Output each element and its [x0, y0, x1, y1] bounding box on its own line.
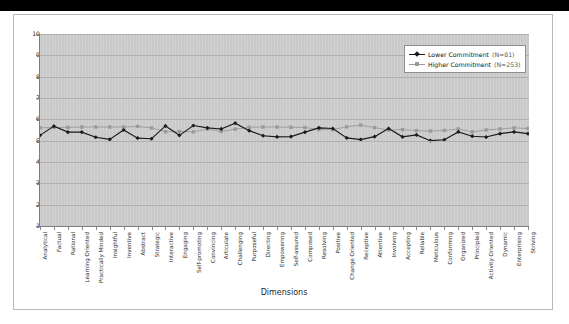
diamond-marker-icon: [409, 50, 425, 58]
chart-figure-card: 10987654321 Lower Commitment (N=81): [13, 14, 553, 310]
diamond-marker: [414, 133, 418, 137]
square-marker: [247, 126, 250, 129]
x-tick-mark: [221, 227, 222, 230]
x-tick-mark: [319, 227, 320, 230]
x-tick-mark: [82, 227, 83, 230]
x-tick-mark: [152, 227, 153, 230]
square-marker: [108, 125, 111, 128]
diamond-marker: [498, 132, 502, 136]
x-tick-mark: [291, 227, 292, 230]
square-marker: [359, 123, 362, 126]
gridline: [40, 205, 529, 206]
x-tick-mark: [40, 227, 41, 230]
x-tick-label: Self-assured: [293, 232, 299, 266]
square-marker: [443, 129, 446, 132]
x-tick-label: Receptive: [363, 232, 369, 260]
square-marker: [192, 130, 195, 133]
square-marker: [80, 125, 83, 128]
diamond-marker: [247, 129, 251, 133]
x-tick-label: Engaging: [182, 232, 188, 258]
x-tick-mark: [361, 227, 362, 230]
legend-label-lower-commitment: Lower Commitment: [428, 51, 489, 58]
x-tick-label: Self-promoting: [196, 232, 202, 273]
square-marker: [261, 125, 264, 128]
x-tick-mark: [110, 227, 111, 230]
legend-row-lower-commitment: Lower Commitment (N=81): [409, 49, 520, 59]
square-marker: [429, 129, 432, 132]
square-marker: [40, 126, 42, 129]
x-tick-mark: [305, 227, 306, 230]
x-tick-label: Strategic: [154, 232, 160, 257]
x-tick-label: Rational: [70, 232, 76, 255]
diamond-marker: [289, 135, 293, 139]
x-tick-label: Factual: [56, 232, 62, 252]
x-tick-mark: [333, 227, 334, 230]
x-tick-label: Principled: [474, 232, 480, 259]
x-axis-title: Dimensions: [14, 288, 554, 297]
diamond-marker: [275, 135, 279, 139]
square-marker: [136, 125, 139, 128]
gridline: [40, 34, 529, 35]
square-marker: [401, 128, 404, 131]
chart-legend: Lower Commitment (N=81) Higher Commitmen…: [404, 45, 526, 73]
x-tick-mark: [193, 227, 194, 230]
square-marker: [275, 125, 278, 128]
x-tick-label: Organized: [460, 232, 466, 261]
x-tick-label: Reliable: [419, 232, 425, 254]
x-tick-mark: [486, 227, 487, 230]
gridline: [40, 98, 529, 99]
x-tick-label: Learning Oriented: [84, 232, 90, 283]
x-tick-label: Convincing: [210, 232, 216, 263]
x-axis-line: [40, 226, 529, 227]
x-tick-mark: [96, 227, 97, 230]
x-tick-label: Change Oriented: [349, 232, 355, 280]
x-tick-label: Practically Minded: [98, 232, 104, 283]
x-tick-mark: [430, 227, 431, 230]
square-marker: [345, 125, 348, 128]
diamond-marker: [484, 135, 488, 139]
screenshot-page: 10987654321 Lower Commitment (N=81): [0, 0, 569, 324]
square-marker: [289, 126, 292, 129]
x-tick-mark: [458, 227, 459, 230]
x-tick-label: Involving: [391, 232, 397, 257]
legend-label-higher-commitment: Higher Commitment: [428, 61, 491, 68]
x-tick-label: Challenging: [237, 232, 243, 265]
gridline: [40, 77, 529, 78]
square-marker: [150, 126, 153, 129]
x-tick-label: Striving: [530, 232, 536, 254]
diamond-marker: [261, 134, 265, 138]
x-tick-mark: [528, 227, 529, 230]
square-marker: [484, 128, 487, 131]
x-tick-mark: [235, 227, 236, 230]
diamond-marker: [512, 130, 516, 134]
x-tick-label: Articulate: [223, 232, 229, 259]
x-tick-label: Purposeful: [251, 232, 257, 262]
diamond-marker: [80, 130, 84, 134]
x-tick-mark: [54, 227, 55, 230]
x-tick-mark: [68, 227, 69, 230]
x-tick-mark: [124, 227, 125, 230]
gridline: [40, 141, 529, 142]
square-marker: [471, 130, 474, 133]
diamond-marker: [470, 134, 474, 138]
x-tick-mark: [207, 227, 208, 230]
x-tick-label: Analytical: [42, 232, 48, 259]
x-tick-label: Positive: [335, 232, 341, 254]
x-tick-mark: [165, 227, 166, 230]
diamond-marker: [526, 132, 529, 136]
legend-row-higher-commitment: Higher Commitment (N=253): [409, 59, 520, 69]
x-tick-mark: [389, 227, 390, 230]
square-marker: [526, 127, 529, 130]
square-marker: [512, 126, 515, 129]
x-tick-label: Accepting: [405, 232, 411, 260]
series-line-1: [40, 123, 528, 141]
x-tick-mark: [472, 227, 473, 230]
x-tick-mark: [403, 227, 404, 230]
x-tick-mark: [347, 227, 348, 230]
gridline: [40, 183, 529, 184]
square-marker: [498, 127, 501, 130]
x-tick-mark: [375, 227, 376, 230]
diamond-marker: [233, 121, 237, 125]
x-tick-label: Dynamic: [502, 232, 508, 257]
x-tick-label: Conforming: [447, 232, 453, 265]
